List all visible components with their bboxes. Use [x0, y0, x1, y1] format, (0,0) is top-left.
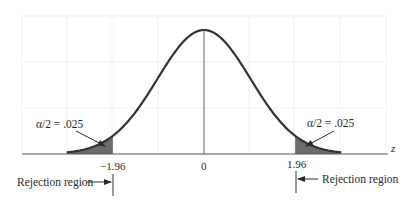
right-alpha-arrow — [306, 131, 334, 146]
right-rejection-label: Rejection region — [322, 173, 399, 186]
left-alpha-arrow — [76, 131, 105, 146]
right-alpha-label: α/2 = .025 — [307, 117, 355, 129]
left-rejection-label: Rejection region — [17, 176, 94, 189]
tick-right-critical: 1.96 — [287, 158, 307, 170]
tick-left-critical: −1.96 — [100, 160, 126, 172]
tick-zero: 0 — [201, 160, 207, 172]
left-alpha-label: α/2 = .025 — [36, 118, 84, 130]
normal-distribution-figure: z −1.96 0 1.96 α/2 = .025 α/2 = .025 Rej… — [0, 0, 416, 206]
z-axis-label: z — [390, 142, 396, 154]
